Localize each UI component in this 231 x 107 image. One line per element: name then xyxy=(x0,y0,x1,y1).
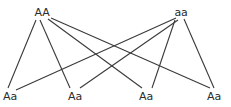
edge-p1-o2 xyxy=(40,20,70,88)
parent-label-AA: AA xyxy=(35,7,50,19)
edge-p2-o4 xyxy=(184,19,214,88)
offspring-label-3: Aa xyxy=(139,91,153,103)
offspring-label-4: Aa xyxy=(207,91,221,103)
offspring-label-1: Aa xyxy=(3,91,17,103)
edge-p2-o1 xyxy=(16,18,176,90)
genetic-cross-diagram: AA aa Aa Aa Aa Aa xyxy=(0,0,231,107)
offspring-label-2: Aa xyxy=(68,91,82,103)
edge-p1-o1 xyxy=(8,20,36,88)
parent-label-aa: aa xyxy=(174,7,187,19)
